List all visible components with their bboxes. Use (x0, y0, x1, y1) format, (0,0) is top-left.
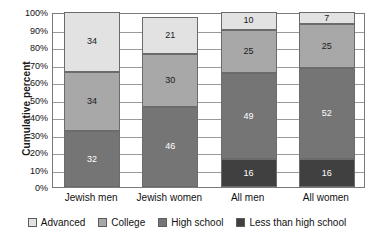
y-axis-tick-label: 100% (8, 9, 48, 18)
bar-segment-label: 34 (87, 37, 97, 46)
legend-swatch-icon (28, 218, 37, 227)
bar-segment-label: 25 (244, 47, 254, 56)
legend-swatch-icon (158, 218, 167, 227)
bar-segment[interactable]: 34 (64, 72, 120, 132)
bar-segment-label: 16 (244, 169, 254, 178)
legend-label: College (111, 217, 145, 228)
bar-segment[interactable]: 30 (142, 54, 198, 107)
y-axis-tick-label: 90% (8, 26, 48, 35)
y-axis-tick-label: 50% (8, 96, 48, 105)
x-axis-category-labels: Jewish menJewish womenAll menAll women (52, 192, 365, 206)
legend: AdvancedCollegeHigh schoolLess than high… (0, 217, 374, 228)
y-axis-tick-label: 0% (8, 184, 48, 193)
bar-segment-label: 10 (244, 16, 254, 25)
legend-swatch-icon (236, 218, 245, 227)
bar-segment-label: 16 (322, 169, 332, 178)
y-axis-tick-label: 70% (8, 61, 48, 70)
bar-segment-label: 7 (324, 14, 329, 23)
bar-segment[interactable]: 16 (299, 159, 355, 187)
stacked-bar[interactable]: 16492510 (221, 12, 277, 187)
bar-segment[interactable]: 21 (142, 17, 198, 54)
bar-segment-label: 21 (165, 31, 175, 40)
y-axis-tick-label: 30% (8, 131, 48, 140)
x-axis-category-label: Jewish men (52, 192, 130, 203)
legend-item[interactable]: College (98, 217, 145, 228)
x-axis-category-label: Jewish women (130, 192, 208, 203)
stacked-bar-chart: Cumulative percent 0%10%20%30%40%50%60%7… (0, 0, 374, 241)
y-axis-tick-label: 10% (8, 166, 48, 175)
legend-item[interactable]: Advanced (28, 217, 85, 228)
bar-segment-label: 30 (165, 76, 175, 85)
bar-group: 1652257 (299, 14, 355, 187)
legend-item[interactable]: Less than high school (236, 217, 346, 228)
bar-segment[interactable]: 25 (299, 24, 355, 68)
y-axis-tick-label: 40% (8, 114, 48, 123)
stacked-bar[interactable]: 1652257 (299, 12, 355, 187)
stacked-bar[interactable]: 0463021 (142, 12, 198, 187)
stacked-bar[interactable]: 0323434 (64, 12, 120, 187)
y-axis-tick-labels: 0%10%20%30%40%50%60%70%80%90%100% (8, 13, 48, 188)
bar-segment[interactable]: 34 (64, 12, 120, 72)
bar-segment[interactable]: 16 (221, 159, 277, 187)
legend-label: Advanced (41, 217, 85, 228)
bar-segment-label: 25 (322, 42, 332, 51)
x-axis-category-label: All men (209, 192, 287, 203)
bar-segment-label: 32 (87, 155, 97, 164)
bar-group: 16492510 (221, 14, 277, 187)
bars-layer: 03234340463021164925101652257 (53, 14, 364, 187)
legend-label: Less than high school (249, 217, 346, 228)
bar-segment-label: 49 (244, 112, 254, 121)
bar-segment[interactable]: 32 (64, 131, 120, 187)
bar-segment[interactable]: 52 (299, 68, 355, 159)
bar-segment[interactable]: 7 (299, 12, 355, 24)
bar-group: 0463021 (142, 14, 198, 187)
y-axis-tick-label: 20% (8, 149, 48, 158)
plot-area: 03234340463021164925101652257 (52, 13, 365, 188)
y-axis-tick-label: 80% (8, 44, 48, 53)
bar-segment[interactable]: 25 (221, 30, 277, 74)
legend-label: High school (171, 217, 223, 228)
bar-segment[interactable]: 46 (142, 107, 198, 188)
bar-segment[interactable]: 49 (221, 73, 277, 159)
bar-segment-label: 34 (87, 97, 97, 106)
bar-segment-label: 46 (165, 142, 175, 151)
bar-group: 0323434 (64, 14, 120, 187)
bar-segment[interactable]: 10 (221, 12, 277, 30)
legend-item[interactable]: High school (158, 217, 223, 228)
legend-swatch-icon (98, 218, 107, 227)
bar-segment-label: 52 (322, 109, 332, 118)
y-axis-tick-label: 60% (8, 79, 48, 88)
x-axis-category-label: All women (287, 192, 365, 203)
